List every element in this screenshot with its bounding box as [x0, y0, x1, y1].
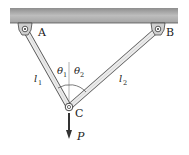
label-l1: l 1	[34, 73, 42, 87]
joint-c	[65, 103, 73, 111]
member-l2	[69, 29, 158, 107]
pin-c-icon	[67, 105, 70, 108]
label-a: A	[37, 26, 47, 39]
label-theta1: θ 1	[57, 65, 67, 79]
svg-text:l: l	[119, 73, 122, 84]
truss-diagram: A B C P l 1 l 2 θ 1 θ 2	[0, 0, 189, 155]
label-l2: l 2	[119, 73, 127, 87]
label-p: P	[76, 130, 85, 143]
svg-text:1: 1	[63, 71, 67, 79]
label-c: C	[75, 107, 83, 120]
load-arrow-icon	[66, 113, 72, 139]
svg-text:2: 2	[80, 71, 84, 79]
ceiling	[10, 8, 178, 23]
label-b: B	[166, 26, 174, 39]
label-theta2: θ 2	[74, 65, 84, 79]
svg-text:1: 1	[38, 79, 42, 87]
svg-text:l: l	[34, 73, 37, 84]
svg-text:2: 2	[123, 79, 127, 87]
